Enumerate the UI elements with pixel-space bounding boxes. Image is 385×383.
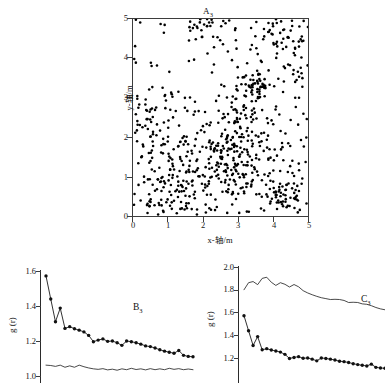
panel-a3-xtick-4: 4 bbox=[266, 220, 282, 230]
panel-a3-ytickmark-1 bbox=[127, 177, 132, 178]
panel-b3-curves bbox=[0, 258, 193, 383]
panel-a3-x-axis-label: x-轴/m bbox=[160, 233, 280, 245]
panel-a3-title-sub: 3 bbox=[210, 11, 213, 18]
panel-a3-y-axis-label: y-轴/m bbox=[122, 70, 134, 126]
panel-a3-xtick-0: 0 bbox=[125, 220, 141, 230]
panel-a3-xtickmark-4 bbox=[273, 217, 274, 222]
panel-a3-xtick-1: 1 bbox=[160, 220, 176, 230]
panel-a3-ytickmark-2 bbox=[127, 137, 132, 138]
panel-a3-ytick-4: 4 bbox=[112, 52, 128, 62]
panel-a3-ytickmark-5 bbox=[127, 18, 132, 19]
panel-a3-xtickmark-1 bbox=[167, 217, 168, 222]
panel-a3-xtickmark-5 bbox=[308, 217, 309, 222]
panel-a3: A3 5 4 3 2 1 0 0 1 2 3 4 5 y-轴/m bbox=[0, 0, 385, 252]
panel-c3-curves bbox=[196, 258, 385, 383]
panel-b3: 1.6 1.4 1.2 1.0 g (r) B3 bbox=[0, 258, 193, 383]
scatter-points-layer bbox=[133, 19, 308, 216]
panel-a3-xtickmark-3 bbox=[238, 217, 239, 222]
panel-a3-title-letter: A bbox=[203, 6, 210, 16]
panel-a3-xtickmark-0 bbox=[132, 217, 133, 222]
panel-a3-xtickmark-2 bbox=[203, 217, 204, 222]
panel-c3: 2.0 1.8 1.6 1.4 1.2 g (r) C3 bbox=[196, 258, 385, 383]
panel-a3-ytick-1: 1 bbox=[112, 172, 128, 182]
figure-root: A3 5 4 3 2 1 0 0 1 2 3 4 5 y-轴/m bbox=[0, 0, 385, 383]
panel-a3-ytick-5: 5 bbox=[112, 13, 128, 23]
scatter-plot-frame bbox=[132, 18, 309, 217]
panel-a3-title: A3 bbox=[188, 6, 228, 18]
panel-a3-ytick-2: 2 bbox=[112, 132, 128, 142]
panel-a3-xtick-5: 5 bbox=[301, 220, 317, 230]
panel-a3-ytickmark-4 bbox=[127, 57, 132, 58]
